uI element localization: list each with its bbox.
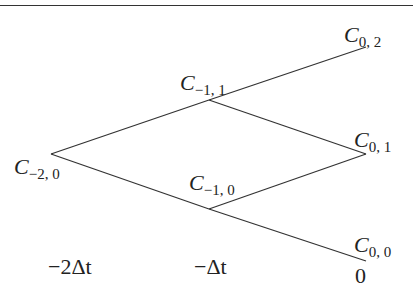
node-label-c-1-1: C−1, 1 xyxy=(180,72,226,98)
time-label-minus-2dt: −2Δt xyxy=(48,256,92,278)
edge-c-2-0-to-c-1-0 xyxy=(51,154,209,209)
time-label-zero: 0 xyxy=(355,265,366,287)
node-label-c0-2: C0, 2 xyxy=(344,24,381,50)
time-label-minus-dt: −Δt xyxy=(194,256,227,278)
node-label-c0-0: C0, 0 xyxy=(354,234,391,260)
edge-c-2-0-to-c-1-1 xyxy=(51,100,209,154)
edge-c-1-1-to-c0-1 xyxy=(209,100,366,154)
edge-c-1-0-to-c0-0 xyxy=(209,209,366,261)
edge-c-1-1-to-c0-2 xyxy=(209,47,366,100)
node-label-c-1-0: C−1, 0 xyxy=(189,172,235,198)
node-label-c-2-0: C−2, 0 xyxy=(14,156,60,182)
node-label-c0-1: C0, 1 xyxy=(354,129,391,155)
